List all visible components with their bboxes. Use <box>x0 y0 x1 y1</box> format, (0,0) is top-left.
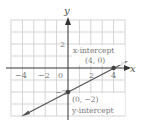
y-axis-label: y <box>63 5 70 16</box>
tick-label-x-neg4: −4 <box>15 71 27 80</box>
x-intercept-coords: (4, 0) <box>85 56 105 65</box>
chart: x y −4 −2 0 2 4 2 −2 x-intercept (4, 0) … <box>0 0 142 125</box>
tick-label-x-2: 2 <box>89 71 94 80</box>
x-axis-label: x <box>130 63 136 74</box>
x-intercept-title: x-intercept <box>73 46 114 55</box>
tick-label-x-0: 0 <box>58 71 63 80</box>
y-intercept-coords: (0, −2) <box>72 95 99 104</box>
tick-label-y-2: 2 <box>60 40 65 49</box>
tick-label-x-neg2: −2 <box>38 71 50 80</box>
y-axis-arrow-icon <box>65 17 71 25</box>
y-intercept-title: y-intercept <box>71 106 114 115</box>
tick-label-x-4: 4 <box>111 71 116 80</box>
tick-label-y-neg2: −2 <box>55 88 67 97</box>
x-intercept-point <box>111 66 116 71</box>
